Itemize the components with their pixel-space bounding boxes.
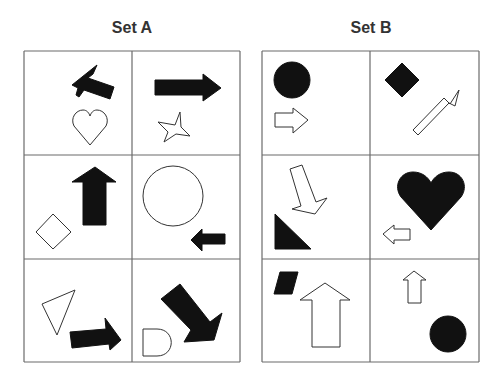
outline-arrow-left-icon [383,225,410,244]
set-a-cell-r2-c0 [42,290,121,350]
filled-diamond-icon [385,63,419,97]
set-b-cell-r0-c0 [274,62,310,133]
outline-triangle-icon [42,290,75,335]
outline-d-shape-icon [143,329,171,356]
filled-circle-icon [274,62,310,98]
outline-star-icon [158,112,190,142]
filled-arrow-up-left-icon [72,65,114,99]
filled-arrow-right-tilted-icon [70,318,121,350]
filled-arrow-right-icon [155,74,221,101]
filled-circle-small-icon [430,316,466,352]
set-b-cell-r0-c1 [385,63,459,135]
set-b-cell-r2-c1 [403,271,466,352]
set-b-title: Set B [351,19,392,36]
filled-arrow-left-icon [191,229,225,251]
filled-parallelogram-icon [274,272,298,294]
outline-arrow-down-icon [290,165,327,214]
figure-canvas: Set A Set B [0,0,498,382]
outline-heart-icon [73,110,108,145]
set-a-cell-r2-c1 [143,284,222,356]
outline-arrow-up-large-icon [300,283,350,347]
filled-arrow-down-right-icon [161,284,222,342]
outline-arrow-up-small-icon [403,271,426,303]
set-a-cell-r0-c1 [155,74,221,142]
set-a-cell-r1-c1 [143,166,225,251]
outline-arrow-right-icon [275,108,308,133]
filled-heart-icon [398,172,465,230]
set-a-shapes [36,65,225,356]
set-b-cell-r1-c0 [275,165,327,249]
filled-arrow-up-icon [72,167,116,225]
set-a-cell-r0-c0 [72,65,114,145]
set-a-title: Set A [112,19,153,36]
set-b-cell-r1-c1 [383,172,464,244]
outline-circle-icon [143,166,203,226]
filled-right-triangle-icon [275,214,311,249]
outline-arrow-up-right-icon [413,90,459,135]
set-b-cell-r2-c0 [274,272,350,347]
outline-diamond-icon [36,214,71,249]
set-b-panel: Set B [262,19,479,362]
set-a-cell-r1-c0 [36,167,116,249]
set-a-panel: Set A [24,19,240,362]
